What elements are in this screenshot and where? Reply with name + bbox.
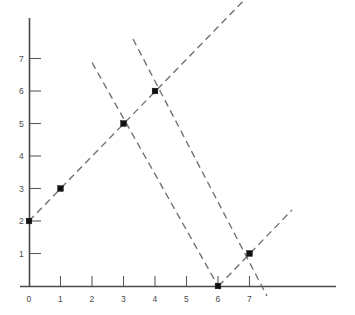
y-tick-label-2: 2 — [10, 217, 24, 226]
y-tick-label-5: 5 — [10, 120, 24, 129]
x-tick-label-4: 4 — [148, 295, 162, 304]
x-tick-label-1: 1 — [54, 295, 68, 304]
plot-area — [0, 0, 355, 315]
data-point-markers — [26, 88, 252, 289]
data-point-1-3 — [58, 186, 64, 192]
y-tick-label-6: 6 — [10, 87, 24, 96]
series-line-1-rising — [29, 0, 289, 221]
y-tick-marks — [30, 59, 41, 254]
series-line-2-falling — [92, 63, 222, 294]
data-point-7-1 — [247, 251, 253, 257]
chart-canvas: 0 1 2 3 4 5 6 7 1 2 3 4 5 6 7 — [0, 0, 355, 315]
data-point-3-5 — [121, 121, 127, 127]
x-tick-label-7: 7 — [243, 295, 257, 304]
x-tick-label-0: 0 — [22, 295, 36, 304]
x-tick-label-6: 6 — [211, 295, 225, 304]
y-tick-label-1: 1 — [10, 250, 24, 259]
y-tick-label-3: 3 — [10, 185, 24, 194]
x-tick-marks — [61, 276, 250, 286]
data-point-6-0 — [215, 283, 221, 289]
x-tick-label-5: 5 — [180, 295, 194, 304]
data-point-0-2 — [26, 218, 32, 224]
y-tick-label-4: 4 — [10, 152, 24, 161]
data-point-4-6 — [152, 88, 158, 94]
x-tick-label-2: 2 — [85, 295, 99, 304]
x-tick-label-3: 3 — [117, 295, 131, 304]
y-tick-label-7: 7 — [10, 55, 24, 64]
